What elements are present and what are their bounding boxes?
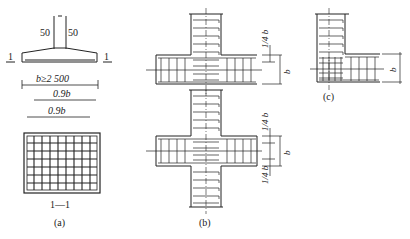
figure-b-dimensions-top [262, 45, 282, 84]
dim-b-top: b [282, 69, 292, 74]
figure-a-section-plan [24, 133, 100, 193]
dim-quarter-b-upper: 1/4 b [260, 112, 270, 131]
section-mark-right: 1 [104, 51, 109, 62]
dim-quarter-b-top: 1/4 b [260, 29, 270, 48]
dim-quarter-b-lower: 1/4 b [260, 165, 270, 184]
rebar-length-label-2: 0.9b [48, 105, 66, 116]
section-mark-left: 1 [8, 51, 13, 62]
caption-a: (a) [54, 217, 65, 229]
figure-c-l-junction [310, 8, 384, 90]
diagram-canvas: 50 50 1 1 b≥2 500 0.9b 0.9b [0, 0, 410, 239]
width-label: b≥2 500 [36, 73, 69, 84]
figure-a-footing-elevation [6, 16, 112, 62]
dim-b-c: b [388, 67, 398, 72]
rebar-length-label-1: 0.9b [53, 88, 71, 99]
dim-50-right: 50 [68, 27, 78, 38]
caption-b: (b) [199, 217, 211, 229]
dim-b-bottom: b [282, 150, 292, 155]
caption-c: (c) [323, 91, 334, 103]
figure-b-cross-junction [146, 90, 262, 214]
figure-b-t-junction [146, 8, 262, 96]
section-label: 1—1 [50, 199, 70, 210]
dim-50-left: 50 [40, 27, 50, 38]
